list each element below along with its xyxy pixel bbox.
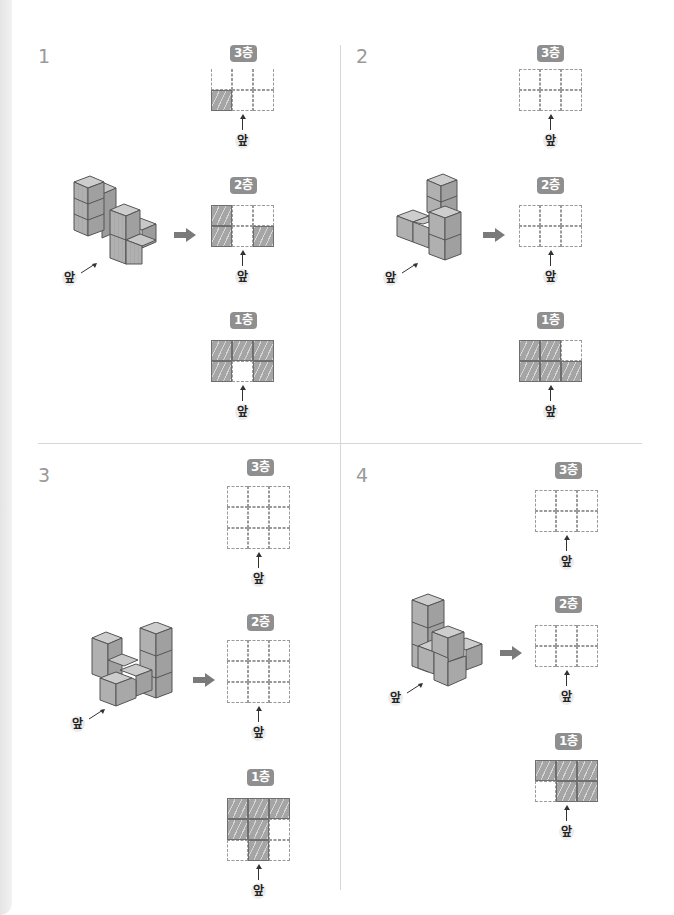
filled-cell[interactable] [211, 226, 232, 247]
empty-cell[interactable] [253, 205, 274, 226]
empty-cell[interactable] [561, 205, 582, 226]
empty-cell[interactable] [248, 640, 269, 661]
layer-label-1-3: 3층 [230, 45, 257, 62]
empty-cell[interactable] [535, 625, 556, 646]
filled-cell[interactable] [248, 819, 269, 840]
empty-cell[interactable] [232, 90, 253, 111]
empty-cell[interactable] [227, 528, 248, 549]
filled-cell[interactable] [253, 226, 274, 247]
layer-grid-3-3 [227, 486, 290, 549]
arrow-shaft [242, 119, 243, 130]
filled-cell[interactable] [535, 760, 556, 781]
empty-cell[interactable] [269, 661, 290, 682]
layer-label-3-3: 3층 [247, 459, 274, 476]
front-direction-arrow-icon [406, 682, 424, 694]
problem-number-2: 2 [356, 45, 368, 67]
filled-cell[interactable] [519, 361, 540, 382]
empty-cell[interactable] [227, 661, 248, 682]
filled-cell[interactable] [211, 361, 232, 382]
filled-cell[interactable] [540, 361, 561, 382]
filled-cell[interactable] [211, 90, 232, 111]
empty-cell[interactable] [561, 340, 582, 361]
filled-cell[interactable] [540, 340, 561, 361]
front-indicator: 앞 [557, 670, 577, 705]
empty-cell[interactable] [519, 90, 540, 111]
empty-cell[interactable] [535, 511, 556, 532]
front-direction-arrow-icon [401, 262, 419, 274]
empty-cell[interactable] [535, 781, 556, 802]
empty-cell[interactable] [540, 205, 561, 226]
empty-cell[interactable] [556, 625, 577, 646]
filled-cell[interactable] [227, 819, 248, 840]
filled-cell[interactable] [577, 781, 598, 802]
empty-cell[interactable] [211, 69, 232, 90]
filled-cell[interactable] [519, 340, 540, 361]
empty-cell[interactable] [540, 226, 561, 247]
empty-cell[interactable] [248, 486, 269, 507]
empty-cell[interactable] [577, 646, 598, 667]
layer-grid-4-2 [535, 625, 598, 667]
empty-cell[interactable] [561, 69, 582, 90]
empty-cell[interactable] [248, 528, 269, 549]
empty-cell[interactable] [269, 486, 290, 507]
filled-cell[interactable] [561, 361, 582, 382]
filled-cell[interactable] [248, 798, 269, 819]
arrow-shaft [550, 390, 551, 401]
filled-cell[interactable] [577, 760, 598, 781]
empty-cell[interactable] [232, 69, 253, 90]
layer-grid-4-1 [535, 760, 598, 802]
arrow-shaft [550, 255, 551, 266]
empty-cell[interactable] [227, 486, 248, 507]
empty-cell[interactable] [519, 205, 540, 226]
empty-cell[interactable] [269, 819, 290, 840]
empty-cell[interactable] [556, 646, 577, 667]
empty-cell[interactable] [269, 507, 290, 528]
arrow-shaft [258, 557, 259, 568]
empty-cell[interactable] [561, 90, 582, 111]
empty-cell[interactable] [248, 661, 269, 682]
empty-cell[interactable] [227, 840, 248, 861]
empty-cell[interactable] [556, 490, 577, 511]
filled-cell[interactable] [556, 760, 577, 781]
filled-cell[interactable] [211, 340, 232, 361]
front-label: 앞 [559, 689, 574, 705]
empty-cell[interactable] [519, 226, 540, 247]
empty-cell[interactable] [232, 226, 253, 247]
empty-cell[interactable] [535, 490, 556, 511]
empty-cell[interactable] [248, 507, 269, 528]
filled-cell[interactable] [211, 205, 232, 226]
empty-cell[interactable] [577, 511, 598, 532]
filled-cell[interactable] [232, 340, 253, 361]
empty-cell[interactable] [253, 69, 274, 90]
filled-cell[interactable] [248, 840, 269, 861]
empty-cell[interactable] [577, 490, 598, 511]
empty-cell[interactable] [561, 226, 582, 247]
filled-cell[interactable] [253, 361, 274, 382]
empty-cell[interactable] [227, 682, 248, 703]
empty-cell[interactable] [540, 69, 561, 90]
empty-cell[interactable] [540, 90, 561, 111]
empty-cell[interactable] [269, 682, 290, 703]
filled-cell[interactable] [253, 340, 274, 361]
empty-cell[interactable] [577, 625, 598, 646]
filled-cell[interactable] [227, 798, 248, 819]
filled-cell[interactable] [556, 781, 577, 802]
problem-number-1: 1 [38, 45, 50, 67]
layer-grid-3-1 [227, 798, 290, 861]
empty-cell[interactable] [248, 682, 269, 703]
arrow-shaft [566, 810, 567, 821]
empty-cell[interactable] [269, 840, 290, 861]
front-label: 앞 [543, 269, 558, 285]
empty-cell[interactable] [227, 640, 248, 661]
empty-cell[interactable] [519, 69, 540, 90]
empty-cell[interactable] [232, 205, 253, 226]
empty-cell[interactable] [535, 646, 556, 667]
empty-cell[interactable] [269, 528, 290, 549]
empty-cell[interactable] [269, 640, 290, 661]
filled-cell[interactable] [269, 798, 290, 819]
arrow-shaft [550, 119, 551, 130]
empty-cell[interactable] [253, 90, 274, 111]
empty-cell[interactable] [556, 511, 577, 532]
empty-cell[interactable] [232, 361, 253, 382]
empty-cell[interactable] [227, 507, 248, 528]
